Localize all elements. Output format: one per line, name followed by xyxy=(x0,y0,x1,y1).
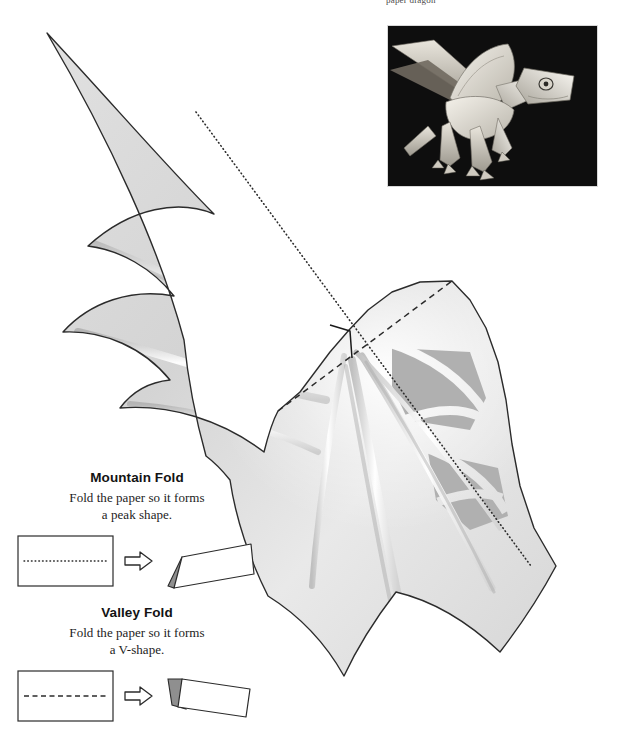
mountain-fold-line1: Fold the paper so it forms xyxy=(12,489,262,507)
valley-fold-title: Valley Fold xyxy=(12,605,262,621)
mountain-fold-line2: a peak shape. xyxy=(12,506,262,524)
mountain-fold-diagram xyxy=(12,530,262,592)
finished-dragon-photo xyxy=(388,26,597,186)
valley-fold-line2: a V-shape. xyxy=(12,641,262,659)
photo-inset xyxy=(388,26,597,186)
valley-right-arrow-icon xyxy=(125,687,152,705)
valley-v-shape xyxy=(168,679,250,717)
mountain-peak-shape xyxy=(168,544,254,588)
legend-valley-fold: Valley Fold Fold the paper so it forms a… xyxy=(12,605,262,727)
valley-fold-line1: Fold the paper so it forms xyxy=(12,624,262,642)
mountain-fold-title: Mountain Fold xyxy=(12,470,262,486)
valley-fold-diagram xyxy=(12,665,262,727)
mountain-right-arrow-icon xyxy=(125,552,152,570)
valley-flat-sheet xyxy=(18,671,113,721)
page-root: paper dragon xyxy=(0,0,619,752)
legend-mountain-fold: Mountain Fold Fold the paper so it forms… xyxy=(12,470,262,592)
